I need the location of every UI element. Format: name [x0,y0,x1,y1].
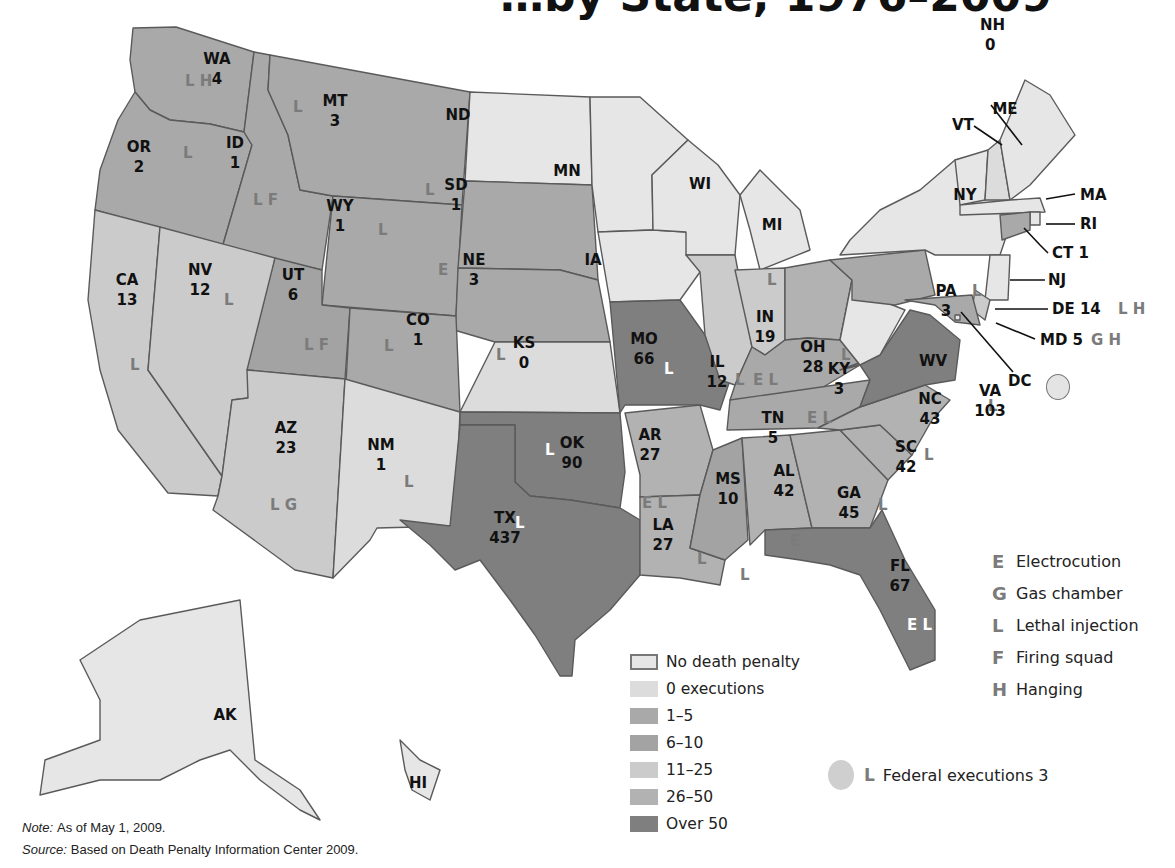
method-codes-ne: E [438,261,448,279]
state-ia [598,230,700,302]
callout-ri: RI [1080,215,1097,233]
method-codes-sc: L [924,446,934,464]
legend-swatch [630,681,658,697]
callout-vt: VT [952,116,975,134]
legend-methods: EElectrocutionGGas chamberLLethal inject… [992,545,1139,705]
source-line: Source:Based on Death Penalty Informatio… [22,842,358,864]
state-abbr: NC [918,390,942,408]
legend-label: 11–25 [666,761,713,779]
state-abbr: NY [953,186,978,204]
state-abbr: CA [116,271,139,289]
state-label-nd: ND [445,106,470,124]
legend-fill: No death penalty0 executions1–56–1011–25… [630,648,800,837]
method-label: Gas chamber [1016,584,1123,603]
state-executions: 43 [920,410,941,428]
state-executions: 4 [212,70,222,88]
state-abbr: WA [203,50,231,68]
state-executions: 1 [230,154,240,172]
state-executions: 0 [519,354,529,372]
state-ri [1030,212,1040,225]
method-codes-in: L [767,271,777,289]
state-executions: 23 [276,439,297,457]
state-abbr: NM [367,436,394,454]
leader-dc [961,312,1013,372]
state-ak [40,600,320,820]
note-text: As of May 1, 2009. [57,820,165,835]
method-code: G [992,583,1016,604]
state-label-wv: WV [919,352,948,370]
state-executions: 42 [774,482,795,500]
legend-label: Over 50 [666,815,728,833]
state-abbr: TN [762,409,785,427]
state-mt [268,55,470,205]
leader-md [996,323,1035,339]
state-abbr: IL [709,353,725,371]
dc-marker [1046,374,1070,400]
method-code: F [992,647,1016,668]
state-label-wi: WI [689,175,711,193]
state-executions: 5 [768,429,778,447]
leader-ma [1046,194,1075,199]
state-executions: 3 [330,112,340,130]
state-abbr: CO [406,311,430,329]
state-abbr: KS [513,334,535,352]
state-abbr: VA [979,382,1002,400]
federal-executions: L Federal executions 3 [828,760,1049,790]
state-executions: 67 [890,577,911,595]
legend-fill-item: 0 executions [630,675,800,702]
state-abbr: AK [213,706,238,724]
us-map: WA4L HOR2LID1L FMT3LWY1LNDSD1LNE3ECA13LN… [0,0,1175,868]
state-abbr: ME [992,100,1017,118]
legend-fill-item: 1–5 [630,702,800,729]
state-abbr: AL [773,462,795,480]
legend-fill-item: 11–25 [630,756,800,783]
method-codes-il: L [735,371,745,389]
state-abbr: HI [409,774,427,792]
legend-swatch [630,816,658,832]
state-abbr: MI [762,216,783,234]
method-codes-al: E [790,532,800,550]
state-abbr: AZ [275,419,298,437]
state-abbr: MT [322,92,348,110]
state-executions: 2 [134,158,144,176]
state-executions: 1 [451,196,461,214]
state-executions: 1 [413,331,423,349]
callout-ct: CT 1 [1052,244,1089,262]
legend-label: 26–50 [666,788,713,806]
state-abbr: OK [560,434,586,452]
leader-vt [974,126,1002,145]
method-label: Firing squad [1016,648,1113,667]
method-codes-ar: E L [642,494,667,512]
method-codes-id: L F [253,191,278,209]
legend-fill-item: 6–10 [630,729,800,756]
method-codes-ky: E L [753,371,778,389]
method-codes-sd: L [425,181,435,199]
state-abbr: ND [445,106,470,124]
note-line: Note:As of May 1, 2009. [22,820,358,842]
method-codes-la: L [697,550,707,568]
method-codes-mt: L [293,98,303,116]
legend-method-item: EElectrocution [992,545,1139,577]
method-codes-ks: L [496,346,506,364]
state-nj [985,255,1010,300]
state-abbr: UT [282,266,305,284]
method-code: H [992,679,1016,700]
state-ar [625,405,713,497]
callout-nj: NJ [1048,271,1066,289]
state-ks [460,342,620,413]
callout-nh: NH [980,16,1005,34]
notes: Note:As of May 1, 2009. Source:Based on … [22,820,358,864]
legend-label: 1–5 [666,707,693,725]
state-me [1000,80,1075,200]
state-abbr: WI [689,175,711,193]
callout-dc: DC [1008,372,1031,390]
method-codes-fl: E L [907,616,932,634]
state-abbr: MN [553,162,580,180]
legend-swatch [630,654,658,670]
state-ct [1000,212,1030,240]
legend-swatch [630,708,658,724]
state-abbr: IN [756,308,774,326]
method-codes-ut: L F [304,336,329,354]
callout-md-methods: G H [1091,331,1121,349]
state-executions: 27 [653,536,674,554]
